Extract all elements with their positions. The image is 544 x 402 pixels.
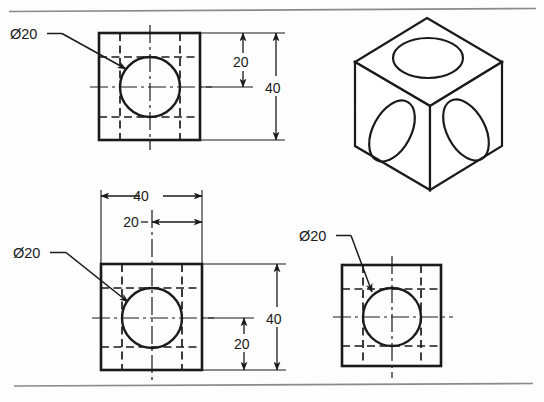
front-view-dim-40-horizontal-text: 40	[133, 188, 149, 204]
front-view-dim-40-vertical-text: 40	[266, 311, 282, 327]
front-view-dim-20-horizontal-text: 20	[123, 214, 139, 230]
front-view-diameter-label: Ø20	[13, 245, 40, 261]
drawing-sheet: Ø20 20 40	[0, 0, 544, 402]
front-view-dim-20-vertical-text: 20	[234, 336, 250, 352]
top-view-dim-40-text: 40	[265, 80, 281, 96]
top-view-dim-20-text: 20	[233, 54, 249, 70]
top-view-diameter-label: Ø20	[10, 26, 37, 42]
side-view-diameter-label: Ø20	[299, 228, 326, 244]
